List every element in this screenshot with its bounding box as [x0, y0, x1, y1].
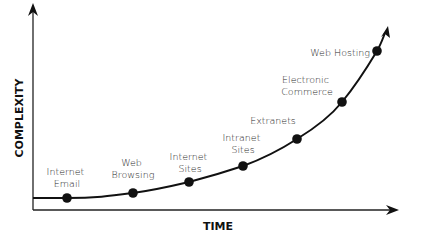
milestone-dot: [337, 97, 347, 107]
milestone-dot: [292, 134, 302, 144]
label-internet-email: Internet Email: [47, 166, 88, 189]
milestone-dot: [238, 161, 248, 171]
milestone-dot: [372, 46, 382, 56]
x-axis-title: TIME: [203, 220, 233, 233]
milestone-dot: [184, 177, 194, 187]
label-extranets: Extranets: [250, 115, 296, 126]
label-web-browsing: Web Browsing: [112, 157, 155, 180]
complexity-time-diagram: COMPLEXITY TIME Internet Email Web Brows…: [0, 0, 423, 237]
label-intranet-sites: Intranet Sites: [223, 132, 264, 155]
curve-arrow-icon: [381, 26, 390, 38]
label-web-hosting: Web Hosting: [310, 47, 370, 58]
milestone-points: [62, 46, 382, 203]
milestone-dot: [128, 188, 138, 198]
label-internet-sites: Internet Sites: [170, 151, 211, 174]
milestone-dot: [62, 193, 72, 203]
label-electronic-commerce: Electronic Commerce: [281, 74, 333, 97]
y-axis-title: COMPLEXITY: [13, 77, 26, 157]
